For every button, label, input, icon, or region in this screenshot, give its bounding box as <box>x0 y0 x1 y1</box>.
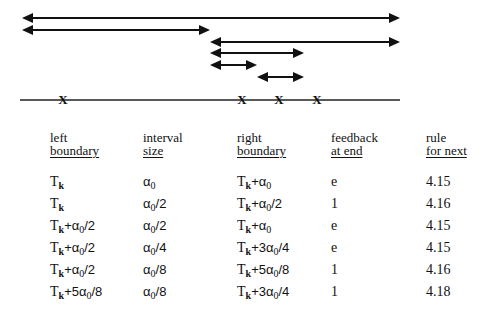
table-cell-rule: 4.18 <box>426 284 451 300</box>
header-line2: boundary <box>50 144 99 157</box>
column-header: rightboundary <box>237 131 286 157</box>
arrowhead-right-icon <box>389 13 400 23</box>
arrowhead-left-icon <box>22 25 33 35</box>
arrowhead-left-icon <box>22 13 33 23</box>
column-header: leftboundary <box>50 131 99 157</box>
table-cell-size: α0/8 <box>143 284 166 301</box>
header-line2: size <box>143 144 183 157</box>
arrowhead-left-icon <box>210 60 221 70</box>
arrowhead-right-icon <box>293 72 304 82</box>
table-cell-left: Tk+α0/2 <box>50 240 95 257</box>
table-cell-size: α0/2 <box>143 218 166 235</box>
interval-arrow <box>22 13 400 23</box>
table-cell-feedback: 1 <box>331 196 338 212</box>
table-cell-size: α0/8 <box>143 262 166 279</box>
interval-arrow <box>210 37 400 47</box>
table-cell-size: α0 <box>143 174 156 191</box>
arrowhead-right-icon <box>389 37 400 47</box>
table-cell-feedback: e <box>331 240 337 256</box>
table-cell-right: Tk+3α0/4 <box>237 240 289 257</box>
column-header: intervalsize <box>143 131 183 157</box>
table-cell-left: Tk <box>50 196 64 213</box>
table-cell-rule: 4.15 <box>426 218 451 234</box>
probe-mark: X <box>58 92 68 107</box>
table-cell-right: Tk+5α0/8 <box>237 262 289 279</box>
arrowhead-left-icon <box>257 72 268 82</box>
table-cell-right: Tk+α0/2 <box>237 196 282 213</box>
arrowhead-right-icon <box>246 60 257 70</box>
interval-arrow <box>210 60 257 70</box>
table-cell-left: Tk <box>50 174 64 191</box>
table-cell-right: Tk+α0 <box>237 218 271 235</box>
arrowhead-right-icon <box>199 25 210 35</box>
arrowhead-right-icon <box>293 48 304 58</box>
table-cell-size: α0/2 <box>143 196 166 213</box>
column-header: feedbackat end <box>331 131 378 157</box>
header-line2: for next <box>426 144 467 157</box>
table-cell-left: Tk+α0/2 <box>50 262 95 279</box>
interval-arrow <box>22 25 210 35</box>
header-line2: boundary <box>237 144 286 157</box>
table-cell-rule: 4.15 <box>426 240 451 256</box>
probe-mark: X <box>312 92 322 107</box>
table-cell-feedback: 1 <box>331 284 338 300</box>
table-cell-right: Tk+α0 <box>237 174 271 191</box>
probe-mark: X <box>237 92 247 107</box>
table-cell-left: Tk+α0/2 <box>50 218 95 235</box>
interval-diagram: XXXX <box>0 0 499 115</box>
probe-mark: X <box>274 92 284 107</box>
column-header: rulefor next <box>426 131 467 157</box>
table-cell-left: Tk+5α0/8 <box>50 284 102 301</box>
header-line2: at end <box>331 144 378 157</box>
arrowhead-left-icon <box>210 48 221 58</box>
table-cell-rule: 4.16 <box>426 196 451 212</box>
table-cell-rule: 4.16 <box>426 262 451 278</box>
table-cell-feedback: 1 <box>331 262 338 278</box>
interval-arrow <box>210 48 304 58</box>
table-cell-right: Tk+3α0/4 <box>237 284 289 301</box>
table-cell-feedback: e <box>331 218 337 234</box>
table-cell-rule: 4.15 <box>426 174 451 190</box>
interval-arrow <box>257 72 304 82</box>
table-cell-feedback: e <box>331 174 337 190</box>
arrowhead-left-icon <box>210 37 221 47</box>
table-cell-size: α0/4 <box>143 240 166 257</box>
